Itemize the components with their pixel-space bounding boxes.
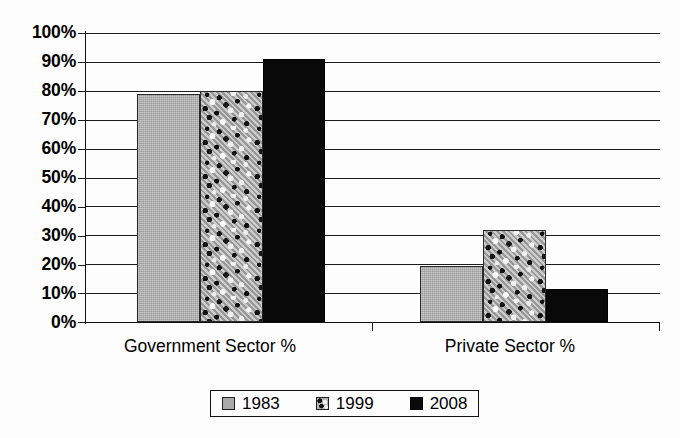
y-axis-tick [78, 91, 85, 92]
y-axis-tick [78, 207, 85, 208]
legend-swatch-1983-icon [222, 397, 235, 410]
y-tick-label: 0% [4, 314, 76, 332]
x-axis-category-label-government: Government Sector % [110, 337, 310, 356]
gridline-80 [85, 91, 660, 92]
chart-legend: 1983 1999 2008 [210, 390, 479, 417]
legend-item-1983: 1983 [222, 395, 280, 412]
bar-chart: 100% 90% 80% 70% 60% 50% 40% 30% 20% 10%… [0, 0, 680, 438]
y-tick-label: 80% [4, 82, 76, 100]
y-axis-tick [78, 120, 85, 121]
y-axis-tick [78, 265, 85, 266]
legend-label-1983: 1983 [242, 395, 280, 412]
bar-1983-government-sector [137, 94, 200, 322]
x-axis-category-label-private: Private Sector % [410, 337, 610, 356]
y-axis-tick [78, 236, 85, 237]
legend-swatch-2008-icon [410, 397, 423, 410]
x-axis-tick-mid [372, 322, 373, 331]
x-axis-tick-end [659, 322, 660, 331]
y-tick-label: 50% [4, 169, 76, 187]
y-axis-tick [78, 293, 85, 294]
legend-item-2008: 2008 [410, 395, 468, 412]
y-axis-tick-labels: 100% 90% 80% 70% 60% 50% 40% 30% 20% 10%… [0, 0, 76, 438]
legend-swatch-1999-icon [316, 397, 329, 410]
legend-label-1999: 1999 [336, 395, 374, 412]
gridline-90 [85, 62, 660, 63]
y-axis-tick [78, 322, 85, 323]
y-tick-label: 10% [4, 285, 76, 303]
y-axis-tick [78, 178, 85, 179]
y-axis-tick [78, 149, 85, 150]
y-axis-tick [78, 62, 85, 63]
y-tick-label: 60% [4, 140, 76, 158]
plot-area [85, 33, 660, 322]
bar-1983-private-sector [420, 266, 483, 322]
legend-label-2008: 2008 [430, 395, 468, 412]
y-tick-label: 90% [4, 53, 76, 71]
bar-1999-private-sector [483, 230, 546, 323]
y-tick-label: 30% [4, 227, 76, 245]
y-tick-label: 70% [4, 111, 76, 129]
legend-item-1999: 1999 [316, 395, 374, 412]
gridline-100 [85, 33, 660, 34]
y-tick-label: 20% [4, 256, 76, 274]
bar-2008-government-sector [263, 59, 325, 322]
y-tick-label: 40% [4, 198, 76, 216]
y-tick-label: 100% [4, 24, 76, 42]
y-axis-tick [78, 33, 85, 34]
bar-2008-private-sector [546, 289, 608, 322]
bar-1999-government-sector [200, 91, 263, 322]
